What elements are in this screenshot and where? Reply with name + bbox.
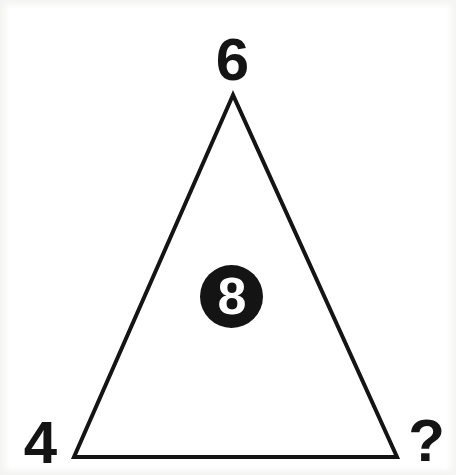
puzzle-figure-canvas: 6 4 ? 8 (0, 0, 456, 475)
center-circle-badge: 8 (200, 265, 263, 328)
vertex-label-top: 6 (209, 30, 255, 90)
vertex-label-bottom-left: 4 (17, 413, 63, 473)
vertex-label-bottom-right-unknown: ? (403, 411, 449, 471)
center-circle-value: 8 (218, 270, 246, 322)
